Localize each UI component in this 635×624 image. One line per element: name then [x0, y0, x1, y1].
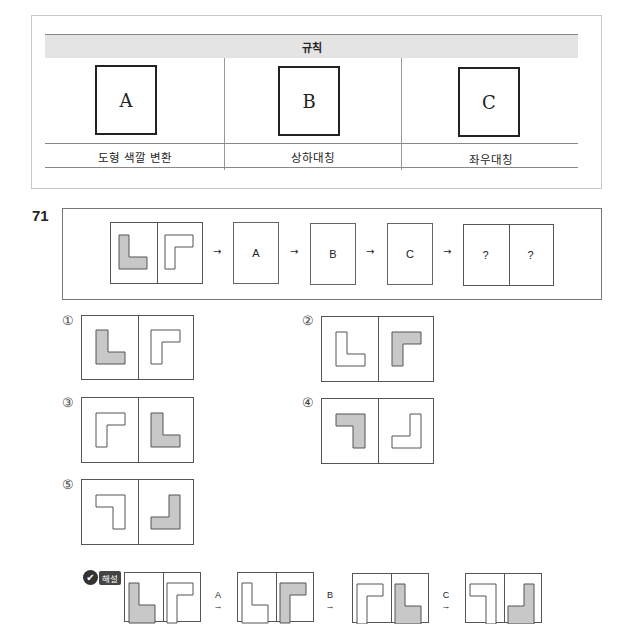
option-number-1[interactable]: ① — [62, 313, 74, 328]
gamma-shape-white — [357, 584, 387, 624]
option-number-4[interactable]: ④ — [302, 395, 314, 410]
option-number-2[interactable]: ② — [302, 313, 314, 328]
step-frame-b: B — [310, 223, 356, 285]
arrow-icon: → — [443, 246, 451, 257]
l-shape-gray — [129, 583, 159, 623]
gamma-shape-white — [96, 413, 128, 449]
solution-frame-after-b — [352, 573, 429, 623]
j-shape-white — [392, 414, 424, 450]
reverse-l-top-shape-gray — [336, 414, 368, 450]
l-shape-gray — [395, 584, 425, 624]
rules-header: 규칙 — [45, 34, 578, 58]
l-shape-gray — [151, 413, 183, 449]
j-shape-gray — [508, 584, 538, 624]
column-divider — [224, 58, 225, 170]
option-number-3[interactable]: ③ — [62, 395, 74, 410]
l-shape-gray — [96, 330, 128, 366]
solution-arrow-b: B→ — [323, 590, 337, 612]
l-shape-gray — [119, 235, 149, 271]
option-5[interactable] — [81, 479, 194, 545]
solution-frame-after-c — [465, 573, 542, 623]
start-figure-pair — [110, 222, 203, 284]
gamma-shape-white — [167, 583, 197, 623]
j-shape-gray — [151, 495, 183, 531]
solution-arrow-a: A→ — [211, 590, 225, 612]
solution-label: 해설 — [99, 571, 121, 585]
gamma-shape-gray — [280, 583, 310, 623]
option-number-5[interactable]: ⑤ — [62, 477, 74, 492]
rule-square-c: C — [458, 67, 520, 137]
unknown-right: ? — [508, 224, 553, 286]
gamma-shape-white — [151, 330, 183, 366]
rules-bottom-line — [45, 167, 578, 168]
gamma-shape-white — [165, 235, 195, 271]
rule-label-a: 도형 색깔 변환 — [55, 149, 215, 165]
unknown-left: ? — [463, 224, 508, 286]
arrow-icon: → — [290, 246, 298, 257]
l-shape-white — [242, 583, 272, 623]
solution-arrow-c: C→ — [439, 590, 453, 612]
solution-badge: ✔ 해설 — [83, 570, 121, 585]
l-shape-white — [336, 332, 368, 368]
step-frame-a: A — [233, 222, 279, 284]
gamma-shape-gray — [392, 332, 424, 368]
option-1[interactable] — [81, 315, 194, 380]
reverse-l-top-shape-white — [96, 495, 128, 531]
step-frame-c: C — [387, 223, 433, 285]
rule-square-b: B — [278, 66, 340, 136]
arrow-icon: → — [213, 246, 221, 257]
rule-label-c: 좌우대칭 — [411, 151, 571, 167]
check-icon: ✔ — [83, 570, 98, 585]
option-4[interactable] — [321, 398, 434, 464]
option-2[interactable] — [321, 316, 434, 382]
reverse-l-top-shape-white — [470, 584, 500, 624]
column-divider — [401, 58, 402, 170]
question-number: 71 — [32, 207, 49, 224]
solution-frame-start — [124, 572, 201, 622]
rule-square-a: A — [95, 65, 157, 135]
option-3[interactable] — [81, 397, 194, 463]
solution-frame-after-a — [237, 572, 314, 622]
rule-label-b: 상하대칭 — [233, 149, 393, 165]
rules-divider-line — [45, 143, 578, 144]
arrow-icon: → — [366, 246, 374, 257]
